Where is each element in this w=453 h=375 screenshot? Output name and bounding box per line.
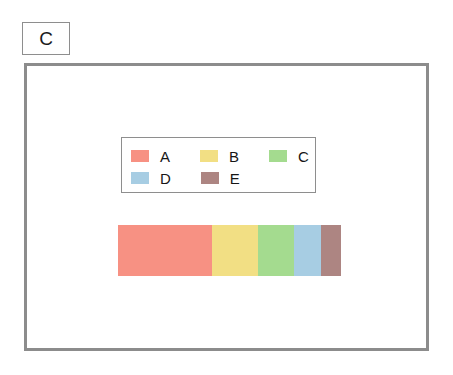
legend-entry-e: E [201, 171, 240, 186]
legend-row: A B C [122, 145, 315, 167]
bar-segment-c [258, 225, 294, 276]
bar-segment-d [294, 225, 321, 276]
legend-label-c: C [298, 149, 309, 164]
legend-entry-b: B [200, 149, 239, 164]
legend-box: A B C D E [121, 137, 316, 193]
legend-swatch-icon-d [131, 172, 149, 184]
legend-swatch-icon-b [200, 150, 218, 162]
legend-swatch-icon-a [131, 150, 149, 162]
legend-label-d: D [160, 171, 171, 186]
legend-entry-d: D [131, 171, 171, 186]
stacked-bar-chart [118, 225, 341, 276]
bar-segment-e [321, 225, 341, 276]
legend-entry-c: C [269, 149, 309, 164]
panel-label-box: C [22, 22, 70, 55]
bar-segment-b [212, 225, 258, 276]
legend-spacer [171, 178, 201, 179]
panel-label-text: C [39, 29, 53, 48]
legend-label-e: E [230, 171, 240, 186]
legend-label-a: A [160, 149, 170, 164]
legend-spacer [239, 156, 269, 157]
plot-frame: A B C D E [24, 63, 429, 351]
bar-segment-a [118, 225, 212, 276]
legend-label-b: B [229, 149, 239, 164]
legend-swatch-icon-e [201, 172, 219, 184]
legend-swatch-icon-c [269, 150, 287, 162]
legend-entry-a: A [131, 149, 170, 164]
legend-spacer [170, 156, 200, 157]
legend-row: D E [122, 167, 315, 189]
